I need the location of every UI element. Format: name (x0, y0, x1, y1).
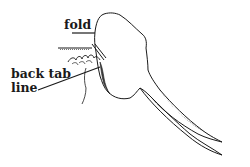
fold-diagram: fold back tab line (0, 0, 250, 167)
paper-head-outline (95, 13, 222, 142)
back-tab-label-line1: back tab (11, 67, 71, 80)
fold-label: fold (64, 18, 91, 31)
fingers-outline (68, 55, 100, 62)
back-tab-label-line2: line (11, 81, 38, 94)
